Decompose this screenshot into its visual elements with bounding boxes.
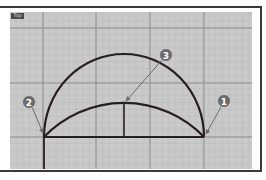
callout-3-label: 3	[163, 51, 169, 61]
callout-1-label: 1	[221, 97, 227, 107]
callout-1: 1	[218, 95, 231, 108]
callout-2: 2	[23, 96, 36, 109]
top-viewport: 1 2 3	[0, 0, 266, 180]
callout-2-label: 2	[26, 98, 32, 108]
viewport-label[interactable]: Top	[11, 12, 24, 19]
callout-3: 3	[160, 49, 173, 62]
minor-grid	[10, 12, 252, 169]
